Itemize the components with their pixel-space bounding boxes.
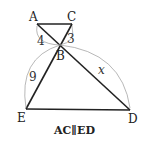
caption: AC∥ED	[53, 124, 95, 137]
measure-AB: 4	[37, 34, 45, 48]
measure-EB: 9	[29, 70, 37, 84]
point-label-B: B	[56, 49, 65, 63]
point-label-A: A	[28, 10, 38, 24]
segment-CE	[26, 24, 72, 109]
measure-BD: x	[98, 63, 105, 77]
segment-AD	[37, 24, 130, 110]
point-label-E: E	[17, 111, 26, 125]
point-label-C: C	[67, 10, 76, 24]
segment-ED	[26, 109, 130, 110]
point-label-D: D	[128, 112, 138, 126]
geometry-figure: A C B E D 4 3 9 x AC∥ED	[0, 0, 150, 141]
measure-CB: 3	[67, 32, 75, 46]
